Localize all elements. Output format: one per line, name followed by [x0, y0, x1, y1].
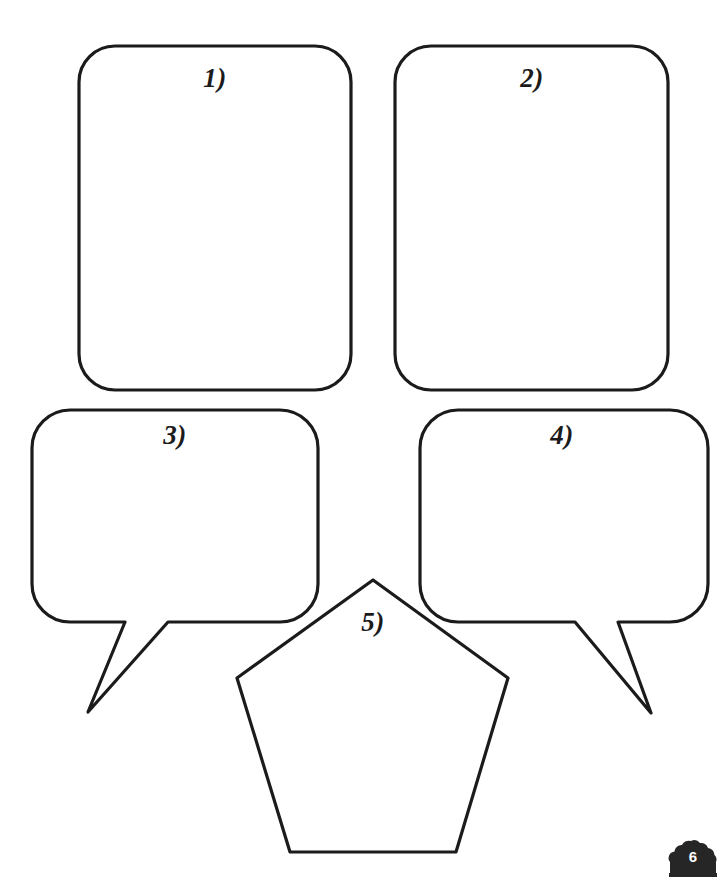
box-1-label: 1)	[155, 65, 275, 92]
bubble-3-label: 3)	[115, 422, 235, 449]
worksheet-page: 1) 2) 3) 4) 5) 6	[0, 0, 726, 885]
bubble-4-label: 4)	[502, 422, 622, 449]
page-number-text: 6	[664, 849, 722, 864]
box-2-outline[interactable]	[395, 46, 668, 390]
pentagon-5-label: 5)	[313, 609, 433, 636]
page-number-badge: 6	[664, 836, 722, 880]
box-2-label: 2)	[472, 65, 592, 92]
box-1-outline[interactable]	[79, 46, 351, 390]
